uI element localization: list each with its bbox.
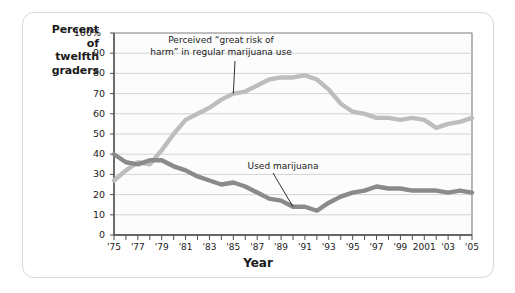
line-chart: Percent of twelfth graders 100%908070605…	[23, 13, 495, 279]
x-axis-title: Year	[113, 256, 403, 270]
figure-card: Percent of twelfth graders 100%908070605…	[22, 12, 494, 278]
used-annotation-label: Used marijuana	[235, 161, 331, 173]
risk-annotation-label: Perceived “great risk of harm” in regula…	[145, 35, 297, 58]
